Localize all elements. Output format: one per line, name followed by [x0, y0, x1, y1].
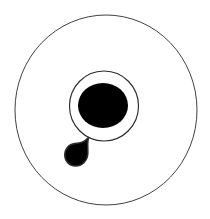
figure-root: Cell diagram Line drawing of a round cel… [0, 0, 210, 219]
nucleolus-disk [78, 83, 128, 128]
cell-diagram: Cell diagram Line drawing of a round cel… [0, 0, 210, 219]
